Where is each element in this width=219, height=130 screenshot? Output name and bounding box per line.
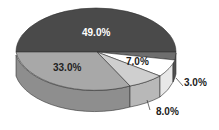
slice-label-8: 8.0% [156,106,179,117]
slice-label-49: 49.0% [82,27,110,38]
slice-label-3: 3.0% [184,77,207,88]
pie-chart [0,0,219,130]
slice-label-7: 7.0% [126,56,149,67]
slice-label-33: 33.0% [53,62,81,73]
